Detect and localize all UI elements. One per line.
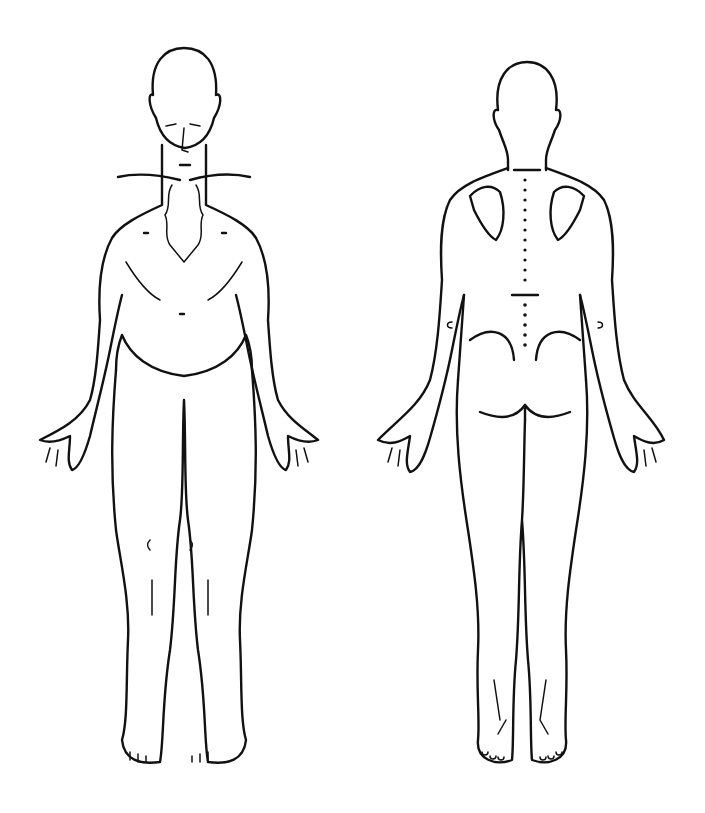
front-figure	[40, 48, 318, 763]
back-legs	[457, 380, 588, 762]
back-achilles	[494, 680, 548, 734]
back-torso-right	[546, 168, 664, 472]
front-toes	[130, 752, 208, 762]
front-torso-right	[206, 145, 318, 470]
front-ribcage	[126, 262, 242, 300]
front-head	[150, 48, 221, 148]
front-legs	[112, 370, 256, 763]
back-hips	[458, 295, 586, 380]
body-diagram	[0, 0, 705, 813]
front-torso-left	[40, 145, 162, 470]
back-head	[494, 62, 561, 170]
body-diagram-svg	[0, 0, 705, 813]
back-spine-dots	[523, 178, 527, 346]
back-buttocks	[480, 405, 570, 420]
back-scapula-right	[551, 187, 584, 240]
front-pelvis	[116, 335, 252, 376]
back-fingers	[388, 448, 656, 466]
front-eyes	[166, 124, 200, 126]
back-figure	[378, 62, 664, 762]
back-scapula-left	[470, 187, 503, 240]
front-sternum	[165, 185, 203, 262]
back-heels	[482, 752, 562, 760]
front-clavicles	[118, 174, 250, 180]
back-torso-left	[378, 168, 508, 472]
